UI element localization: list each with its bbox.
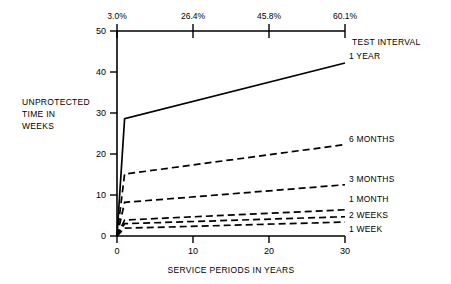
x-axis-tick-label-30: 30 <box>340 246 350 256</box>
chart-svg: 3.0% 26.4% 45.8% 60.1% TEST INTERVAL 50 … <box>0 0 451 284</box>
y-axis-tick-label-30: 30 <box>96 108 106 118</box>
series-label-3-months: 3 MONTHS <box>349 174 395 184</box>
y-axis: 50 40 30 20 10 0 UNPROTECTED TIME IN WEE… <box>22 26 117 241</box>
y-axis-title-line-1: UNPROTECTED <box>22 97 90 107</box>
top-axis-tick-label-3: 60.1% <box>333 11 358 21</box>
x-axis-title: SERVICE PERIODS IN YEARS <box>168 265 295 275</box>
y-axis-tick-label-0: 0 <box>101 231 106 241</box>
y-axis-tick-label-20: 20 <box>96 149 106 159</box>
top-axis: 3.0% 26.4% 45.8% 60.1% TEST INTERVAL <box>107 11 420 47</box>
top-axis-tick-label-0: 3.0% <box>107 11 127 21</box>
top-axis-tick-label-2: 45.8% <box>257 11 282 21</box>
series-line-6-months <box>117 145 345 236</box>
series-line-1-year <box>117 63 345 236</box>
top-axis-tick-label-1: 26.4% <box>181 11 206 21</box>
y-axis-tick-label-40: 40 <box>96 67 106 77</box>
series-label-1-year: 1 YEAR <box>349 51 380 61</box>
series-label-1-week: 1 WEEK <box>349 224 382 234</box>
series-line-1-month <box>117 210 345 236</box>
series-label-2-weeks: 2 WEEKS <box>349 210 388 220</box>
test-interval-legend-title: TEST INTERVAL <box>352 37 421 47</box>
series-label-1-month: 1 MONTH <box>349 194 389 204</box>
y-axis-tick-label-10: 10 <box>96 190 106 200</box>
x-axis-tick-label-0: 0 <box>114 246 119 256</box>
series-line-1-week <box>117 222 345 236</box>
x-axis-tick-label-20: 20 <box>264 246 274 256</box>
x-axis-tick-label-10: 10 <box>188 246 198 256</box>
series-group <box>117 63 345 236</box>
y-axis-title-line-3: WEEKS <box>22 121 54 131</box>
chart-container: 3.0% 26.4% 45.8% 60.1% TEST INTERVAL 50 … <box>0 0 451 284</box>
series-label-6-months: 6 MONTHS <box>349 134 395 144</box>
series-label-group: 1 YEAR6 MONTHS3 MONTHS1 MONTH2 WEEKS1 WE… <box>349 51 395 234</box>
y-axis-tick-label-50: 50 <box>96 26 106 36</box>
y-axis-title-line-2: TIME IN <box>22 109 55 119</box>
x-axis: 0 10 20 30 SERVICE PERIODS IN YEARS <box>114 236 350 275</box>
